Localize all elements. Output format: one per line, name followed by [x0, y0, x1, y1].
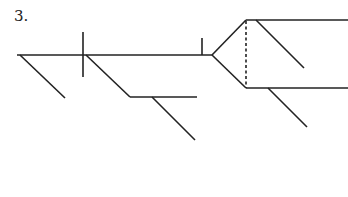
subject-modifier-slant — [20, 55, 65, 98]
compound-top-modifier — [256, 20, 304, 68]
fork-upper — [212, 20, 246, 55]
sentence-diagram — [0, 0, 348, 197]
prepositional-object-modifier — [152, 97, 195, 140]
compound-bottom-modifier — [268, 88, 307, 127]
verb-modifier-slant — [86, 55, 130, 97]
fork-lower — [212, 55, 246, 88]
